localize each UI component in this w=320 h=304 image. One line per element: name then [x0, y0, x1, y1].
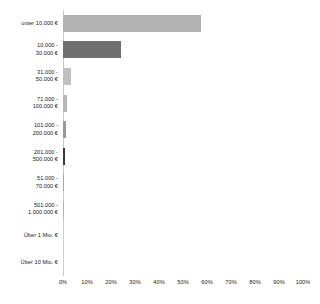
- category-label: 71.000 -100.000 €: [0, 90, 58, 117]
- x-axis-tick-label: 50%: [177, 279, 188, 285]
- category-label: unter 10.000 €: [0, 10, 58, 37]
- category-label-line: 501.000 -: [34, 202, 58, 209]
- category-label: 10.000 -30.000 €: [0, 37, 58, 64]
- x-axis-tick-label: 0%: [59, 279, 67, 285]
- x-axis-tick-label: 30%: [129, 279, 140, 285]
- x-axis: 0%10%20%30%40%50%60%70%80%90%100%: [63, 276, 303, 296]
- category-label-line: 100.000 €: [33, 103, 58, 110]
- x-axis-tick-label: 20%: [105, 279, 116, 285]
- category-label-line: 101.000 -: [34, 122, 58, 129]
- x-axis-tick-label: 90%: [273, 279, 284, 285]
- x-axis-tick-label: 60%: [201, 279, 212, 285]
- x-axis-tick-label: 100%: [296, 279, 311, 285]
- bar-row: [63, 223, 303, 250]
- category-label-line: 1.000.000 €: [28, 209, 58, 216]
- bar: [63, 174, 64, 191]
- category-label: 501.000 -1.000.000 €: [0, 196, 58, 223]
- category-label-line: Über 1 Mio. €: [24, 232, 58, 239]
- category-label-line: 51.000 -: [37, 175, 58, 182]
- bar-row: [63, 196, 303, 223]
- bar-row: [63, 37, 303, 64]
- bar: [63, 95, 67, 112]
- category-label-line: 10.000 -: [37, 42, 58, 49]
- bar-row: [63, 90, 303, 117]
- category-label: 101.000 -200.000 €: [0, 116, 58, 143]
- category-label: 201.000 -500.000 €: [0, 143, 58, 170]
- category-label: Über 10 Mio. €: [0, 249, 58, 276]
- category-label-line: 31.000 -: [37, 69, 58, 76]
- x-axis-tick-label: 40%: [153, 279, 164, 285]
- category-label: Über 1 Mio. €: [0, 223, 58, 250]
- bar-row: [63, 170, 303, 197]
- bar: [63, 41, 121, 58]
- x-axis-tick-label: 80%: [249, 279, 260, 285]
- category-label-line: 30.000 €: [36, 50, 58, 57]
- category-label-line: unter 10.000 €: [21, 20, 58, 27]
- bar: [63, 121, 66, 138]
- bar-row: [63, 249, 303, 276]
- x-axis-tick-label: 10%: [81, 279, 92, 285]
- bar: [63, 201, 64, 218]
- plot-area: [63, 10, 303, 276]
- bar: [63, 15, 201, 32]
- category-label-line: 70.000 €: [36, 183, 58, 190]
- bar-chart: unter 10.000 €10.000 -30.000 €31.000 -50…: [0, 0, 320, 304]
- category-label-line: 50.000 €: [36, 76, 58, 83]
- category-axis-labels: unter 10.000 €10.000 -30.000 €31.000 -50…: [0, 10, 60, 276]
- bar-row: [63, 116, 303, 143]
- category-label-line: 71.000 -: [37, 96, 58, 103]
- category-label: 31.000 -50.000 €: [0, 63, 58, 90]
- bar-row: [63, 63, 303, 90]
- bar: [63, 148, 65, 165]
- category-label: 51.000 -70.000 €: [0, 170, 58, 197]
- category-label-line: 500.000 €: [33, 156, 58, 163]
- bar: [63, 228, 64, 245]
- bar: [63, 68, 71, 85]
- bar: [63, 254, 64, 271]
- category-label-line: 200.000 €: [33, 130, 58, 137]
- category-label-line: Über 10 Mio. €: [21, 259, 58, 266]
- bar-row: [63, 143, 303, 170]
- category-label-line: 201.000 -: [34, 149, 58, 156]
- x-axis-tick-label: 70%: [225, 279, 236, 285]
- bar-row: [63, 10, 303, 37]
